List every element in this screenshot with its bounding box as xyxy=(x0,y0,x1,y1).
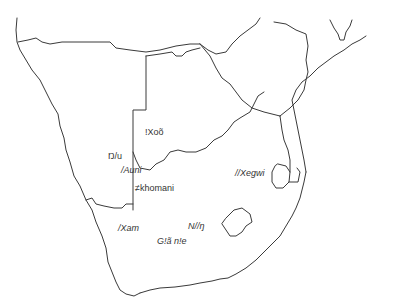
zimbabwe-botswana-border xyxy=(200,44,280,116)
caprivi-strip xyxy=(146,48,200,56)
label-khomani: ≠khomani xyxy=(135,184,174,193)
label-gane: G!ã n!e xyxy=(157,237,187,246)
eswatini-outline xyxy=(272,164,290,188)
label-xegwi: //Xegwi xyxy=(235,169,265,178)
southern-africa-map xyxy=(0,0,415,305)
label-xam: /Xam xyxy=(118,224,139,233)
label-xoo: !Xoõ xyxy=(145,128,164,137)
label-nu: Ŋ/u xyxy=(108,152,122,161)
sa-mozambique-border xyxy=(280,116,290,172)
label-nng: N//ŋ xyxy=(188,222,205,231)
angola-namibia-border xyxy=(18,38,200,52)
label-auni: /Auni xyxy=(121,166,142,175)
malawi-border xyxy=(330,20,352,40)
zimbabwe-border-north xyxy=(200,18,260,54)
orange-river-border xyxy=(86,198,133,208)
lesotho-outline xyxy=(222,208,252,236)
eswatini-east-line xyxy=(289,168,300,182)
zimbabwe-east-border xyxy=(274,22,308,116)
east-coastline xyxy=(292,36,366,172)
